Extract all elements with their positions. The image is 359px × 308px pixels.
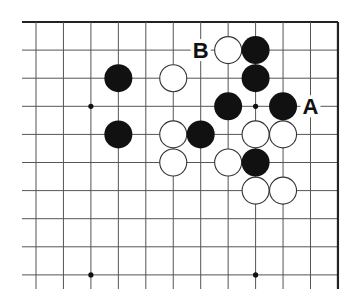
white-stone xyxy=(270,121,297,148)
black-stone xyxy=(104,120,132,148)
star-point xyxy=(253,272,258,277)
white-stone xyxy=(160,65,187,92)
star-point xyxy=(88,104,93,109)
white-stone xyxy=(160,121,187,148)
white-stone xyxy=(215,149,242,176)
white-stone xyxy=(215,37,242,64)
white-stone xyxy=(160,149,187,176)
star-point xyxy=(88,272,93,277)
go-board: AB xyxy=(0,0,359,308)
white-stone xyxy=(242,121,269,148)
white-stone xyxy=(242,177,269,204)
point-label-b: B xyxy=(193,38,209,63)
black-stone xyxy=(242,149,270,177)
black-stone xyxy=(269,92,297,120)
black-stone xyxy=(104,64,132,92)
point-label-a: A xyxy=(303,94,319,119)
black-stone xyxy=(187,120,215,148)
black-stone xyxy=(242,36,270,64)
black-stone xyxy=(242,64,270,92)
black-stone xyxy=(214,92,242,120)
white-stone xyxy=(270,177,297,204)
star-point xyxy=(253,104,258,109)
